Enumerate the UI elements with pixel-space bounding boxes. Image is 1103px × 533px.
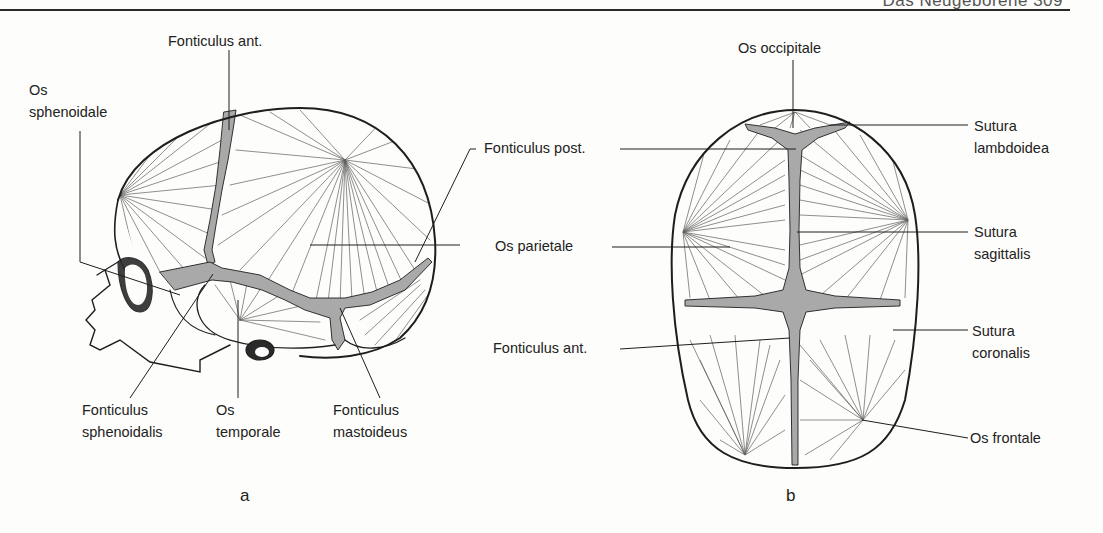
superior-skull-view — [672, 110, 919, 468]
label-fonticulus-sphenoidalis-line2: sphenoidalis — [82, 424, 163, 441]
label-os-sphenoidale-line1: Os — [29, 82, 48, 99]
label-sutura-coronalis-line1: Sutura — [972, 323, 1015, 340]
label-os-occipitale: Os occipitale — [738, 40, 821, 57]
label-fonticulus-posterior: Fonticulus post. — [484, 140, 586, 157]
lateral-leader-lines — [80, 50, 476, 398]
label-fonticulus-sphenoidalis-line1: Fonticulus — [82, 402, 148, 419]
label-fonticulus-anterior: Fonticulus ant. — [168, 33, 262, 50]
label-fonticulus-anterior-b: Fonticulus ant. — [493, 340, 587, 357]
label-os-parietale: Os parietale — [495, 238, 573, 255]
panel-letter-a: a — [240, 486, 249, 506]
label-os-sphenoidale-line2: sphenoidale — [29, 104, 107, 121]
label-os-temporale-line2: temporale — [216, 424, 280, 441]
label-fonticulus-mastoideus-line1: Fonticulus — [333, 402, 399, 419]
label-sutura-lambdoidea-line1: Sutura — [974, 118, 1017, 135]
label-fonticulus-mastoideus-line2: mastoideus — [333, 424, 407, 441]
label-os-frontale: Os frontale — [970, 430, 1041, 447]
label-os-temporale-line1: Os — [216, 402, 235, 419]
label-sutura-sagittalis-line2: sagittalis — [974, 246, 1030, 263]
label-sutura-coronalis-line2: coronalis — [972, 345, 1030, 362]
panel-letter-b: b — [786, 486, 795, 506]
label-sutura-sagittalis-line1: Sutura — [974, 224, 1017, 241]
superior-sutures — [685, 122, 900, 465]
lateral-skull-view — [86, 108, 435, 372]
running-header: Das Neugeborene 309 — [882, 0, 1063, 11]
skull-illustration — [0, 0, 1103, 533]
label-sutura-lambdoidea-line2: lambdoidea — [974, 140, 1049, 157]
